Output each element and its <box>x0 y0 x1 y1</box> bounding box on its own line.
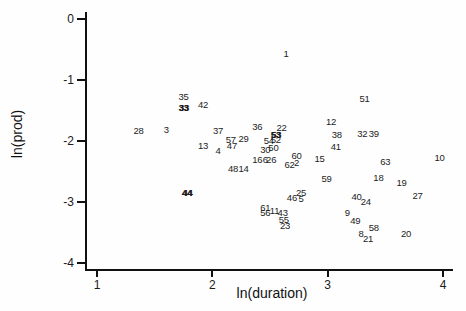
data-point-label: 50 <box>268 143 278 152</box>
data-point-label: 20 <box>401 229 411 238</box>
x-axis-tick-label: 1 <box>94 279 101 291</box>
x-axis-tick <box>327 269 329 277</box>
scatter-plot-figure: ln(prod) ln(duration) 12340-1-2-3-413533… <box>0 0 466 311</box>
data-point-label: 33 <box>178 102 188 111</box>
data-point-label: 44 <box>182 188 192 197</box>
data-point-label: 39 <box>369 129 379 138</box>
data-point-label: 9 <box>345 207 350 216</box>
y-axis-tick <box>77 18 85 20</box>
x-axis-tick <box>211 269 213 277</box>
data-point-label: 12 <box>326 116 336 125</box>
data-point-label: 16 <box>252 155 262 164</box>
x-axis-tick-label: 4 <box>440 279 447 291</box>
data-point-label: 37 <box>213 126 223 135</box>
data-point-label: 14 <box>238 163 248 172</box>
x-axis-tick <box>442 269 444 277</box>
y-axis-tick-label: -1 <box>40 74 74 86</box>
y-axis-tick-label: -3 <box>40 196 74 208</box>
data-point-label: 29 <box>238 133 248 142</box>
y-axis-tick <box>77 79 85 81</box>
data-point-label: 5 <box>299 193 304 202</box>
data-point-label: 18 <box>373 172 383 181</box>
y-axis-line <box>85 12 87 270</box>
data-point-label: 35 <box>178 91 188 100</box>
data-point-label: 41 <box>331 141 341 150</box>
data-point-label: 36 <box>252 121 262 130</box>
x-axis-tick-label: 3 <box>324 279 331 291</box>
data-point-label: 32 <box>357 129 367 138</box>
data-point-label: 46 <box>287 193 297 202</box>
data-point-label: 19 <box>396 177 406 186</box>
x-axis-title: ln(duration) <box>237 285 308 301</box>
data-point-label: 21 <box>363 233 373 242</box>
y-axis-tick <box>77 262 85 264</box>
data-point-label: 1 <box>284 49 289 58</box>
data-point-label: 42 <box>198 99 208 108</box>
data-point-label: 3 <box>164 124 169 133</box>
data-point-label: 59 <box>321 174 331 183</box>
y-axis-tick <box>77 140 85 142</box>
data-point-label: 4 <box>216 146 221 155</box>
y-axis-tick-label: 0 <box>40 13 74 25</box>
x-axis-tick-label: 2 <box>209 279 216 291</box>
data-point-label: 48 <box>228 163 238 172</box>
data-point-label: 2 <box>294 157 299 166</box>
data-point-label: 63 <box>380 157 390 166</box>
data-point-label: 62 <box>285 160 295 169</box>
y-axis-tick-label: -4 <box>40 257 74 269</box>
data-point-label: 51 <box>359 94 369 103</box>
data-point-label: 24 <box>361 196 371 205</box>
data-point-label: 13 <box>198 141 208 150</box>
data-point-label: 23 <box>280 221 290 230</box>
data-point-label: 47 <box>227 141 237 150</box>
data-point-label: 15 <box>314 154 324 163</box>
data-point-label: 38 <box>332 130 342 139</box>
data-point-label: 58 <box>369 223 379 232</box>
x-axis-line <box>85 269 453 271</box>
y-axis-title: ln(prod) <box>9 110 25 158</box>
data-point-label: 28 <box>133 126 143 135</box>
y-axis-tick <box>77 201 85 203</box>
data-point-label: 27 <box>413 191 423 200</box>
data-point-label: 49 <box>350 216 360 225</box>
y-axis-tick-label: -2 <box>40 135 74 147</box>
data-point-label: 26 <box>266 155 276 164</box>
data-point-label: 10 <box>434 152 444 161</box>
x-axis-tick <box>96 269 98 277</box>
